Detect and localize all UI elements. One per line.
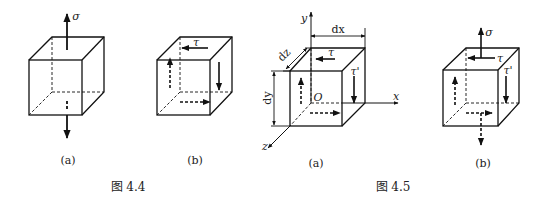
tau-label-4-4b: τ — [193, 36, 199, 49]
tau-prime-label-4-5b: τ' — [503, 64, 512, 77]
dy-label: dy — [261, 91, 274, 104]
y-axis-label: y — [301, 12, 307, 25]
tau-prime-label-4-5a: τ' — [350, 65, 359, 78]
panel-label-4-5b: (b) — [475, 157, 491, 170]
shear-arrows-4-4b — [170, 48, 219, 102]
sigma-label-4-5b: σ — [485, 26, 493, 39]
tau-label-4-5b: τ — [497, 52, 503, 65]
origin-label: O — [313, 91, 322, 104]
x-axis-label: x — [393, 90, 399, 103]
panel-label-4-5a: (a) — [308, 157, 323, 170]
z-axis-label: z — [262, 140, 268, 153]
panel-label-4-4a: (a) — [60, 154, 75, 167]
panel-label-4-4b: (b) — [187, 154, 203, 167]
caption-fig-4-4: 图 4.4 — [111, 177, 146, 194]
sigma-label-4-4a: σ — [72, 10, 80, 23]
caption-fig-4-5: 图 4.5 — [376, 177, 411, 194]
dx-label: dx — [331, 23, 344, 36]
tau-label-4-5a: τ — [328, 46, 334, 59]
